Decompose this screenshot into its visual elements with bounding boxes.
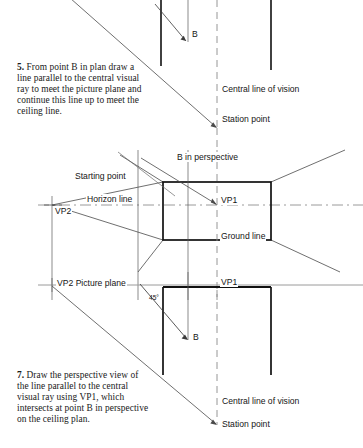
instruction-step-7: 7. Draw the perspective view of the line…: [17, 370, 149, 425]
line-b-in-perspective-to-vp1: [141, 158, 216, 204]
instruction-step-5-text: From point B in plan draw a line paralle…: [17, 62, 142, 116]
instruction-step-7-text: Draw the perspective view of the line pa…: [17, 370, 148, 424]
arrowhead-b-bottom: [182, 334, 188, 340]
ray-to-point-b-top: [155, 4, 186, 41]
arrowhead-b-top: [181, 36, 187, 41]
label-starting-point: Starting point: [74, 171, 127, 181]
instruction-step-5: 5. From point B in plan draw a line para…: [17, 62, 149, 117]
receding-line-top-right: [271, 150, 345, 182]
label-vp2-horizon: VP2: [54, 206, 72, 216]
receding-line-bottom-right: [271, 240, 340, 272]
label-station-point-bottom: Station point: [221, 419, 271, 429]
label-angle-45: 45°: [148, 293, 160, 303]
label-horizon-line: Horizon line: [86, 194, 133, 204]
label-vp1-plan: VP1: [220, 277, 238, 287]
label-station-point-top: Station point: [221, 114, 271, 124]
label-b-bottom: B: [192, 332, 200, 342]
label-b-top: B: [191, 29, 199, 39]
label-ground-line: Ground line: [220, 231, 266, 241]
label-central-line-of-vision-bottom: Central line of vision: [221, 396, 300, 406]
instruction-step-5-number: 5.: [17, 62, 24, 72]
arrowhead-vp1-middle: [211, 198, 217, 205]
perspective-drawing-page: 5. From point B in plan draw a line para…: [0, 0, 363, 448]
label-central-line-of-vision-top: Central line of vision: [221, 84, 300, 94]
label-b-in-perspective: B in perspective: [176, 152, 239, 162]
ground-line-to-vp2-extension: [138, 240, 163, 272]
label-vp1-horizon: VP1: [220, 195, 238, 205]
label-vp2-picture-plane: VP2 Picture plane: [56, 278, 127, 288]
instruction-step-7-number: 7.: [17, 370, 24, 380]
